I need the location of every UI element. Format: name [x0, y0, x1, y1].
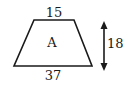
top-base-label: 15: [46, 5, 63, 20]
height-label: 18: [107, 36, 124, 51]
bottom-base-label: 37: [45, 68, 62, 83]
region-label: A: [46, 35, 57, 50]
trapezoid-diagram: 15 37 A 18: [0, 0, 124, 86]
